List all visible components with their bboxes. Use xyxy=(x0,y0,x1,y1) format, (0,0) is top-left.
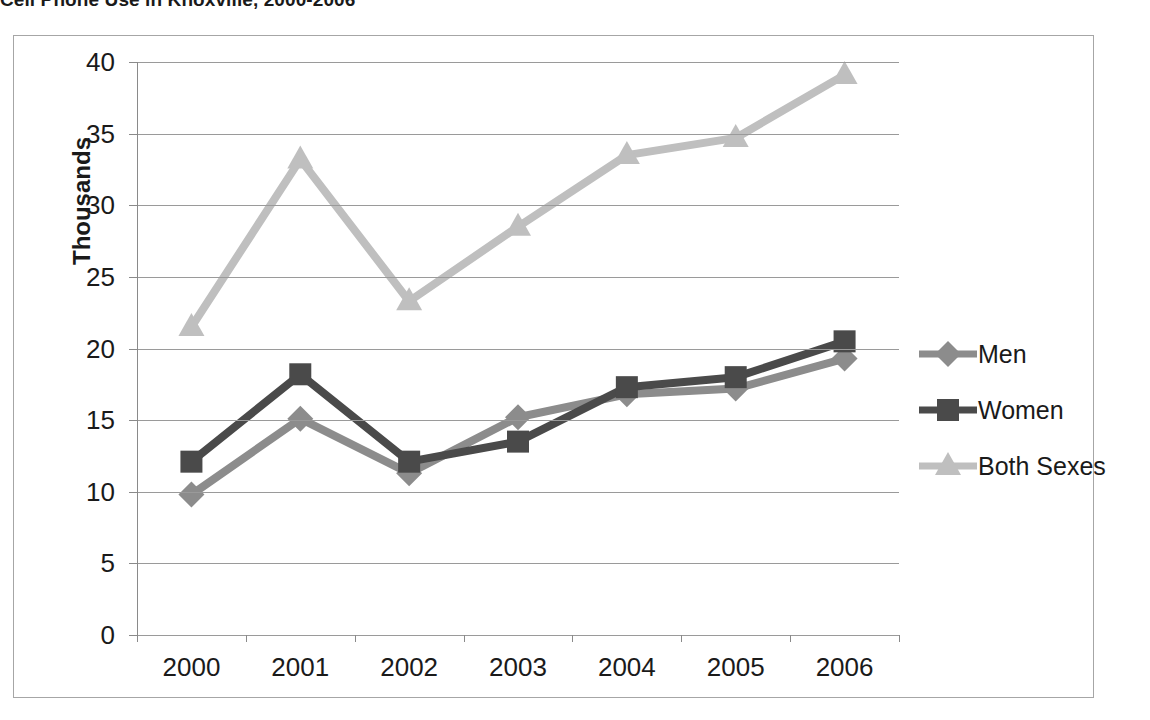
triangle-marker xyxy=(935,452,961,475)
square-marker xyxy=(180,451,202,473)
diamond-marker-icon xyxy=(919,344,977,364)
x-tick-mark xyxy=(790,635,791,642)
y-gridline xyxy=(137,492,899,493)
x-tick-mark xyxy=(899,635,900,642)
x-tick-label: 2003 xyxy=(463,652,573,683)
y-tick-label: 35 xyxy=(63,118,115,149)
x-tick-label: 2006 xyxy=(790,652,900,683)
x-tick-label: 2005 xyxy=(681,652,791,683)
series-women xyxy=(180,330,855,472)
diamond-marker xyxy=(935,341,961,367)
y-gridline xyxy=(137,277,899,278)
y-gridline xyxy=(137,635,899,636)
y-tick-label: 5 xyxy=(63,548,115,579)
square-marker xyxy=(616,376,638,398)
y-tick-label: 0 xyxy=(63,620,115,651)
y-gridline xyxy=(137,349,899,350)
y-gridline xyxy=(137,62,899,63)
y-tick-label: 25 xyxy=(63,261,115,292)
square-marker xyxy=(289,363,311,385)
x-tick-label: 2004 xyxy=(572,652,682,683)
legend-label: Men xyxy=(978,340,1027,369)
y-gridline xyxy=(137,563,899,564)
x-tick-label: 2001 xyxy=(245,652,355,683)
triangle-marker xyxy=(832,61,858,84)
y-tick-label: 10 xyxy=(63,476,115,507)
y-tick-mark xyxy=(129,205,137,206)
chart-legend: MenWomenBoth Sexes xyxy=(919,326,1094,494)
square-marker xyxy=(725,366,747,388)
series-both-sexes xyxy=(178,61,857,336)
legend-item-women[interactable]: Women xyxy=(919,382,1094,438)
x-tick-label: 2002 xyxy=(354,652,464,683)
y-tick-label: 15 xyxy=(63,405,115,436)
y-gridline xyxy=(137,205,899,206)
y-tick-label: 20 xyxy=(63,333,115,364)
square-marker xyxy=(507,431,529,453)
square-marker xyxy=(937,399,959,421)
y-tick-label: 30 xyxy=(63,190,115,221)
y-tick-mark xyxy=(129,563,137,564)
legend-marker-svg xyxy=(919,395,977,425)
legend-marker-svg xyxy=(919,451,977,481)
y-tick-mark xyxy=(129,62,137,63)
y-tick-mark xyxy=(129,492,137,493)
triangle-marker-icon xyxy=(919,456,977,476)
chart-frame: Thousands 051015202530354020002001200220… xyxy=(13,35,1094,698)
y-tick-mark xyxy=(129,635,137,636)
y-tick-label: 40 xyxy=(63,47,115,78)
x-tick-mark xyxy=(681,635,682,642)
x-tick-label: 2000 xyxy=(136,652,246,683)
legend-label: Women xyxy=(978,396,1064,425)
legend-label: Both Sexes xyxy=(978,452,1106,481)
legend-item-both-sexes[interactable]: Both Sexes xyxy=(919,438,1094,494)
y-axis-line xyxy=(137,62,138,635)
triangle-marker xyxy=(287,145,313,168)
square-marker xyxy=(398,451,420,473)
y-tick-mark xyxy=(129,277,137,278)
y-tick-mark xyxy=(129,420,137,421)
x-tick-mark xyxy=(355,635,356,642)
x-tick-mark xyxy=(246,635,247,642)
x-tick-mark xyxy=(572,635,573,642)
y-tick-mark xyxy=(129,349,137,350)
y-gridline xyxy=(137,134,899,135)
chart-title: Cell Phone Use in Knoxville, 2000-2006 xyxy=(0,0,520,13)
chart-page: Cell Phone Use in Knoxville, 2000-2006 T… xyxy=(0,0,1150,720)
y-gridline xyxy=(137,420,899,421)
x-tick-mark xyxy=(137,635,138,642)
y-tick-mark xyxy=(129,134,137,135)
x-tick-mark xyxy=(464,635,465,642)
square-marker-icon xyxy=(919,400,977,420)
legend-item-men[interactable]: Men xyxy=(919,326,1094,382)
legend-marker-svg xyxy=(919,339,977,369)
series-line xyxy=(191,75,844,327)
